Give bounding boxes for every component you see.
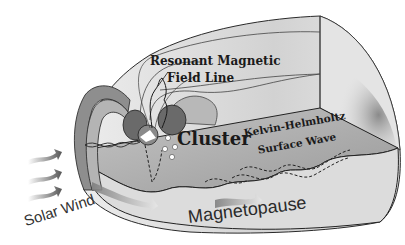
resonant-field-line-label-2: Field Line bbox=[167, 72, 234, 84]
resonant-field-line-label: Resonant Magnetic bbox=[150, 55, 281, 67]
cluster-spacecraft-4 bbox=[169, 154, 174, 159]
solar-wind-arrow-icon bbox=[28, 149, 62, 165]
magnetosphere-diagram: Resonant Magnetic Field Line Cluster Kel… bbox=[0, 0, 405, 245]
solar-wind-arrow-icon bbox=[28, 169, 62, 185]
solar-wind-arrow-icon bbox=[28, 186, 62, 202]
cluster-spacecraft-1 bbox=[165, 135, 170, 140]
cluster-label: Cluster bbox=[177, 130, 251, 148]
cluster-spacecraft-2 bbox=[162, 146, 167, 151]
solar-wind-arrows bbox=[28, 149, 62, 202]
